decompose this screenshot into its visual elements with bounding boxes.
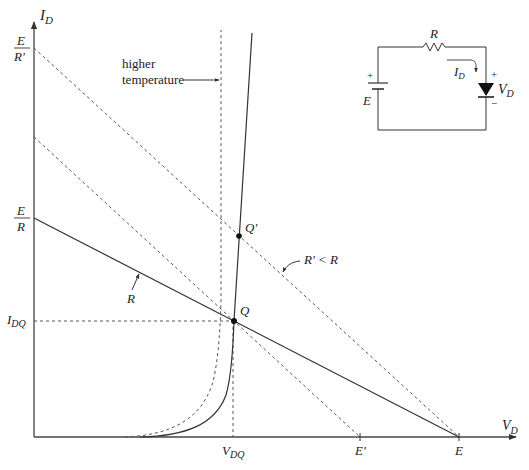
higher-temp-label-2: temperature	[122, 72, 184, 87]
diode-icon	[478, 83, 494, 96]
tick-vdq: VDQ	[222, 443, 245, 460]
current-label: ID	[453, 64, 465, 81]
load-line-mid-dashed	[34, 137, 360, 437]
x-axis-label: VD	[502, 418, 519, 436]
svg-text:R: R	[16, 219, 25, 234]
higher-temp-label-1: higher	[122, 56, 156, 71]
r-label: R	[126, 291, 135, 306]
y-axis-label: ID	[39, 7, 53, 26]
source-label: E	[362, 93, 371, 108]
diode-minus: −	[491, 97, 497, 109]
resistor-label: R	[429, 26, 438, 41]
resistor-icon	[423, 43, 445, 51]
diode-voltage-label: VD	[498, 82, 515, 99]
diode-curve-higher-temp	[125, 30, 221, 437]
q-prime-label: Q'	[245, 220, 257, 235]
svg-text:E: E	[16, 33, 25, 48]
svg-text:E: E	[16, 203, 25, 218]
tick-e-prime: E'	[354, 443, 366, 458]
circuit-schematic: R + E + − VD ID	[362, 26, 515, 130]
source-plus: +	[367, 69, 373, 81]
axes	[34, 22, 516, 437]
q-label: Q	[240, 303, 250, 318]
diode-curve	[140, 33, 252, 437]
diode-plus: +	[491, 68, 497, 80]
r-arrow	[132, 274, 139, 290]
tick-e-over-r-prime: E R'	[13, 33, 30, 64]
tick-idq: IDQ	[6, 312, 27, 329]
load-line-r-prime	[34, 48, 459, 437]
diagram-canvas: ID VD E R' E R IDQ VDQ E' E Q Q' higher …	[0, 0, 529, 470]
tick-e-over-r: E R	[14, 203, 30, 234]
tick-e: E	[454, 443, 463, 458]
q-prime-point	[236, 233, 242, 239]
r-prime-arrow	[283, 261, 300, 272]
svg-text:R': R'	[13, 49, 25, 64]
load-line-r	[34, 218, 459, 437]
r-prime-label: R' < R	[303, 252, 338, 267]
q-point	[231, 318, 237, 324]
